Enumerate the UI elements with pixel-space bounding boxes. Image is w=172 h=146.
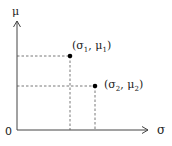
point-1-marker <box>68 54 73 59</box>
origin-label: 0 <box>5 125 12 138</box>
point-2-marker <box>93 84 98 89</box>
point-1-label: (σ1, μ1) <box>72 39 111 54</box>
sigma-mu-diagram: μ σ 0 (σ1, μ1) (σ2, μ2) <box>0 0 172 146</box>
x-axis-label: σ <box>157 123 165 137</box>
y-axis-label: μ <box>12 5 19 18</box>
point-2-label: (σ2, μ2) <box>104 78 143 93</box>
